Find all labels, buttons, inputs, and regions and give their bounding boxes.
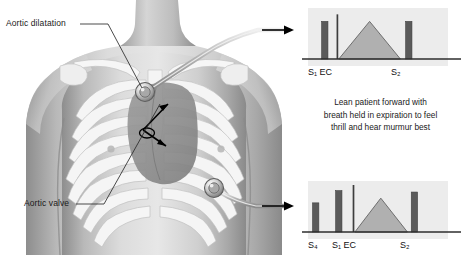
right-column: S₁ ECS₂ Lean patient forward with breath… [300,0,461,255]
bar-s4 [313,203,319,232]
murmur-diamond [355,198,408,232]
bar-s1 [336,191,342,232]
tick-label: S₄ [308,240,318,250]
bar-s2 [406,21,412,59]
stethoscope-lower-highlight [210,184,214,188]
neck-shape [120,0,196,46]
tick-label: S₁ EC [332,240,356,250]
phonocardiogram-lower-panel [308,181,448,239]
phonocardiogram-upper-tick-labels: S₁ ECS₂ [308,67,460,81]
anatomy-illustration [0,0,300,255]
phonocardiogram-upper-panel [308,8,448,66]
murmur-diamond [339,21,401,59]
figure-root: Aortic dilatation Aortic valve S₁ ECS₂ L… [0,0,461,255]
bar-s1 [322,21,328,59]
bar-ec [353,185,355,232]
exit-arrow-upper [262,26,294,35]
phonocardiogram-upper-chart [308,8,448,66]
stethoscope-upper-highlight [141,88,145,92]
label-aortic-valve: Aortic valve [24,198,69,208]
bar-ec [337,14,339,59]
phonocardiogram-lower-tick-labels: S₄S₁ ECS₂ [308,240,460,254]
phonocardiogram-lower-chart [308,181,448,239]
nipple-left [107,145,114,152]
instruction-line-2: breath held in expiration to feel [302,109,459,122]
instruction-text: Lean patient forward with breath held in… [302,96,459,134]
bar-s2 [411,192,417,232]
instruction-line-1: Lean patient forward with [302,96,459,109]
instruction-line-3: thrill and hear murmur best [302,121,459,134]
nipple-right [217,145,224,152]
label-aortic-dilatation: Aortic dilatation [6,18,66,28]
tick-label: S₁ EC [308,67,332,77]
tick-label: S₂ [391,67,401,77]
tick-label: S₂ [400,240,410,250]
